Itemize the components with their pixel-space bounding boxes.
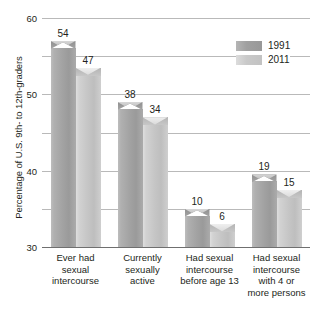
bar-value-label: 6 [219,211,225,222]
bar-cap [210,224,235,232]
bar-2011-2[interactable]: 34 [143,117,168,247]
category-labels: Ever hadsexualintercourseCurrentlysexual… [42,252,310,310]
bar-body [118,109,143,247]
category-label-line: intercourse [42,275,109,287]
bar-rect: 38 [118,102,143,247]
bar-body [277,197,302,247]
bar-rect: 19 [252,174,277,247]
bar-cap [277,190,302,198]
bar-cap [143,117,168,125]
category-label-line: Had sexual [176,252,243,264]
bar-group-3: 106 [176,18,243,247]
bar-rect: 10 [185,209,210,247]
bar-2011-1[interactable]: 47 [76,68,101,247]
legend-item-2011[interactable]: 2011 [236,54,290,65]
bar-body [210,231,235,247]
category-label-line: Had sexual [243,252,310,264]
bar-body [252,181,277,247]
bar-1991-4[interactable]: 19 [252,174,277,247]
category-label-1: Ever hadsexualintercourse [42,252,109,287]
gridline-0: 0 [42,247,310,248]
category-label-line: more persons [243,287,310,299]
bar-1991-2[interactable]: 38 [118,102,143,247]
category-label-line: before age 13 [176,275,243,287]
bar-body [185,216,210,247]
legend-swatch-1991 [236,41,262,51]
category-label-line: Ever had [42,252,109,264]
bar-2011-3[interactable]: 6 [210,224,235,247]
bar-group-1: 5447 [42,18,109,247]
bar-rect: 34 [143,117,168,247]
bar-1991-3[interactable]: 10 [185,209,210,247]
bar-cap [76,68,101,76]
legend-swatch-2011 [236,55,262,65]
category-label-line: with 4 or [243,275,310,287]
bar-2011-4[interactable]: 15 [277,190,302,247]
category-label-line: active [109,275,176,287]
category-label-line: intercourse [243,264,310,276]
y-axis-title: Percentage of U.S. 9th- to 12th-graders [13,28,24,248]
bar-body [76,75,101,247]
category-label-line: intercourse [176,264,243,276]
category-label-2: Currentlysexuallyactive [109,252,176,287]
y-tick-label-50: 50 [26,89,37,100]
bar-1991-1[interactable]: 54 [51,41,76,247]
bar-chart: Percentage of U.S. 9th- to 12th-graders … [0,0,319,310]
bar-group-2: 3834 [109,18,176,247]
legend-label-1991: 1991 [268,40,290,51]
category-label-3: Had sexualintercoursebefore age 13 [176,252,243,287]
y-tick-label-40: 40 [26,165,37,176]
category-label-4: Had sexualintercoursewith 4 ormore perso… [243,252,310,298]
bar-value-label: 34 [149,104,160,115]
bar-value-label: 10 [191,196,202,207]
category-label-line: sexually [109,264,176,276]
bar-rect: 54 [51,41,76,247]
category-label-line: sexual [42,264,109,276]
bar-rect: 47 [76,68,101,247]
category-label-line: Currently [109,252,176,264]
bar-body [51,48,76,247]
bar-rect: 15 [277,190,302,247]
legend-label-2011: 2011 [268,54,290,65]
y-tick-label-60: 60 [26,13,37,24]
bar-body [143,124,168,247]
bar-value-label: 15 [283,177,294,188]
chart-legend: 1991 2011 [236,40,290,65]
bar-value-label: 19 [258,161,269,172]
bar-value-label: 38 [124,89,135,100]
bar-value-label: 47 [82,55,93,66]
bar-rect: 6 [210,224,235,247]
bar-value-label: 54 [57,28,68,39]
y-tick-label-30: 30 [26,242,37,253]
legend-item-1991[interactable]: 1991 [236,40,290,51]
